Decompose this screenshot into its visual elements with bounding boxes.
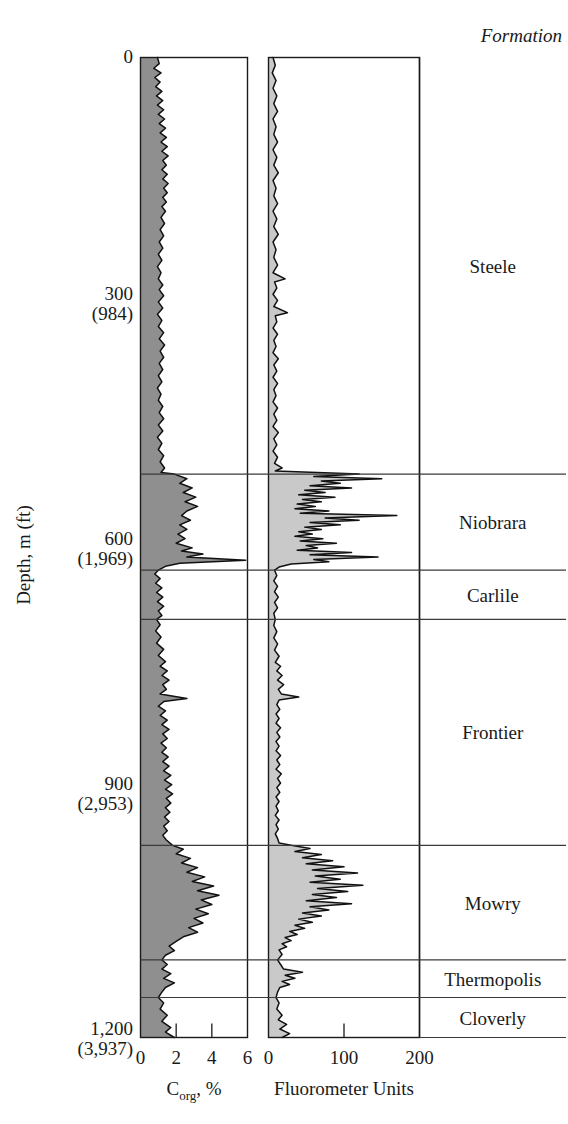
fluorometer-x-tick-label-100: 100 xyxy=(330,1047,359,1068)
formation-label-niobrara: Niobrara xyxy=(459,512,527,533)
depth-tick-feet-300: (984) xyxy=(92,303,133,325)
formation-label-mowry: Mowry xyxy=(465,893,521,914)
depth-tick-feet-900: (2,953) xyxy=(78,793,133,815)
formation-label-carlile: Carlile xyxy=(467,585,519,606)
figure-canvas: Formation Depth, m (ft) 0300(984)600(1,9… xyxy=(0,0,568,1124)
depth-tick-feet-600: (1,969) xyxy=(78,548,133,570)
formation-column-header: Formation xyxy=(480,25,562,46)
formation-label-frontier: Frontier xyxy=(462,722,524,743)
corg-x-tick-label-6: 6 xyxy=(243,1047,253,1068)
formation-label-cloverly: Cloverly xyxy=(460,1008,527,1029)
fluorometer-axis-title: Fluorometer Units xyxy=(274,1078,414,1099)
depth-tick-feet-1200: (3,937) xyxy=(78,1038,133,1060)
well-log-figure: Formation Depth, m (ft) 0300(984)600(1,9… xyxy=(0,0,568,1124)
fluorometer-x-tick-label-200: 200 xyxy=(405,1047,434,1068)
formation-label-steele: Steele xyxy=(470,256,516,277)
depth-tick-meters-1200: 1,200 xyxy=(90,1018,133,1039)
formation-label-thermopolis: Thermopolis xyxy=(444,969,541,990)
corg-x-tick-label-2: 2 xyxy=(171,1047,181,1068)
corg-axis-title-main: C xyxy=(166,1078,179,1099)
depth-tick-meters-0: 0 xyxy=(124,46,134,67)
corg-x-tick-label-4: 4 xyxy=(207,1047,217,1068)
corg-axis-title-sub: org xyxy=(179,1088,197,1103)
fluorometer-x-tick-label-0: 0 xyxy=(264,1047,274,1068)
depth-axis-label: Depth, m (ft) xyxy=(13,505,35,605)
depth-tick-meters-900: 900 xyxy=(105,773,134,794)
depth-axis-label-text: Depth, m (ft) xyxy=(13,505,35,605)
corg-axis-title-tail: , % xyxy=(196,1078,222,1099)
corg-x-tick-label-0: 0 xyxy=(136,1047,146,1068)
depth-tick-meters-600: 600 xyxy=(105,528,134,549)
depth-tick-meters-300: 300 xyxy=(105,283,134,304)
